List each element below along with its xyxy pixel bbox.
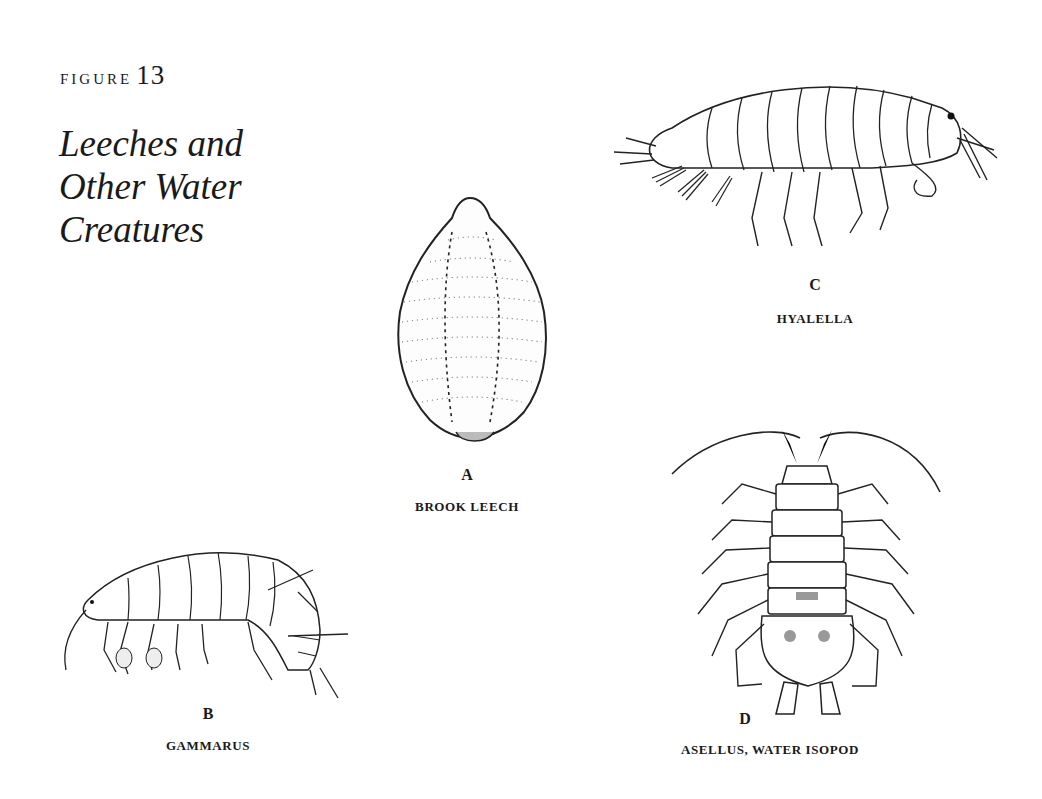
figure-title: Leeches and Other Water Creatures bbox=[59, 122, 319, 251]
panel-a-letter: A bbox=[452, 466, 482, 484]
panel-a-caption: BROOK LEECH bbox=[377, 499, 557, 515]
isopod-illustration bbox=[672, 424, 942, 714]
figure-number: FIGURE13 bbox=[60, 60, 165, 91]
title-line-2: Other Water bbox=[59, 165, 319, 208]
leech-illustration bbox=[390, 192, 555, 447]
gammarus-illustration bbox=[58, 540, 358, 700]
title-line-1: Leeches and bbox=[59, 122, 319, 165]
panel-d-letter: D bbox=[730, 710, 760, 728]
hyalella-illustration bbox=[612, 68, 1002, 258]
panel-c-letter: C bbox=[800, 276, 830, 294]
panel-b-caption: GAMMARUS bbox=[118, 738, 298, 754]
panel-c-caption: HYALELLA bbox=[725, 311, 905, 327]
figure-number-value: 13 bbox=[136, 60, 165, 90]
panel-d-caption: ASELLUS, WATER ISOPOD bbox=[650, 742, 890, 758]
figure-label: FIGURE bbox=[60, 71, 132, 87]
panel-b-letter: B bbox=[193, 705, 223, 723]
title-line-3: Creatures bbox=[59, 208, 319, 251]
